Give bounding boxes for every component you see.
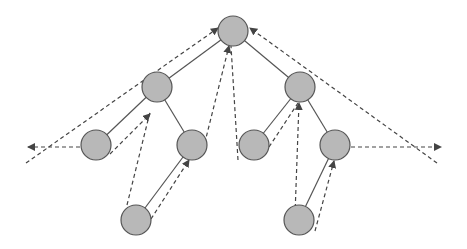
traversal-arrows bbox=[26, 28, 441, 231]
tree-nodes bbox=[81, 16, 350, 235]
tree-node-LR bbox=[177, 130, 207, 160]
traversal-arrow-3 bbox=[127, 112, 150, 205]
traversal-arrow-6 bbox=[231, 46, 238, 160]
traversal-arrow-8 bbox=[295, 103, 299, 215]
traversal-arrow-5 bbox=[203, 46, 229, 150]
traversal-arrow-4 bbox=[151, 160, 189, 219]
tree-node-RR bbox=[320, 130, 350, 160]
tree-svg bbox=[0, 0, 467, 249]
tree-node-RL bbox=[239, 130, 269, 160]
traversal-arrow-9 bbox=[315, 161, 334, 231]
tree-diagram bbox=[0, 0, 467, 249]
tree-node-R bbox=[285, 72, 315, 102]
traversal-arrow-7 bbox=[269, 103, 298, 147]
tree-edges bbox=[96, 31, 335, 220]
tree-node-LL bbox=[81, 130, 111, 160]
tree-node-root bbox=[218, 16, 248, 46]
tree-node-L bbox=[142, 72, 172, 102]
tree-node-RRL bbox=[284, 205, 314, 235]
tree-node-LRL bbox=[121, 205, 151, 235]
